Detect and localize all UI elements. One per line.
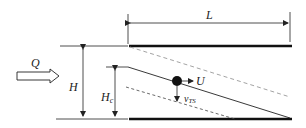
- depth-label: H: [68, 80, 79, 94]
- critical-trajectory: [128, 67, 290, 118]
- critical-depth-label: Hc: [100, 90, 114, 105]
- flow-label: Q: [31, 56, 40, 70]
- length-dimension: L: [128, 8, 290, 44]
- velocity-label: U: [196, 74, 206, 88]
- lower-dashed-trajectory: [126, 87, 235, 119]
- inflow-arrow-icon: [17, 69, 59, 83]
- length-label: L: [205, 8, 213, 22]
- upper-dashed-trajectory: [130, 47, 290, 97]
- settling-tank-diagram: L H Hc Q U vTS: [0, 0, 306, 128]
- settling-velocity-label: vTS: [184, 93, 196, 105]
- particle: [172, 76, 182, 86]
